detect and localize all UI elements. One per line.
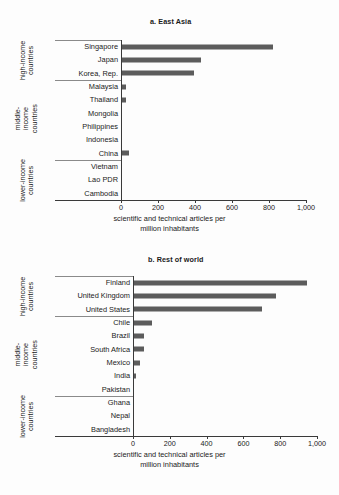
x-tick-label: 200 [152, 204, 164, 211]
bar-row: Finland [55, 276, 317, 289]
bar-row: Thailand [55, 93, 306, 106]
bar [133, 320, 152, 325]
category-label: Vietnam [55, 163, 121, 170]
bar-track [133, 383, 317, 396]
x-axis-title-b-line2: million inhabitants [0, 460, 339, 470]
x-tick-label: 400 [201, 440, 213, 447]
bar-track [133, 356, 317, 369]
bar [133, 333, 144, 338]
bar [121, 57, 201, 62]
category-label: United Kingdom [55, 292, 133, 299]
bar-row: Bangladesh [55, 423, 317, 436]
x-tick-label: 600 [226, 204, 238, 211]
x-axis-ticks-b: 02004006008001,000 [0, 436, 339, 450]
group-label-b-middle-income: middle- income countries [14, 325, 39, 385]
bar-row: Nepal [55, 409, 317, 422]
category-label: Lao PDR [55, 176, 121, 183]
x-tick-label: 1,000 [297, 204, 315, 211]
bar-row: Mongolia [55, 107, 306, 120]
x-tick-label: 0 [131, 440, 135, 447]
x-tick-label: 1,000 [308, 440, 326, 447]
bar-rows-east-asia: SingaporeJapanKorea, Rep.MalaysiaThailan… [55, 40, 306, 200]
group-label-b-high-income: high-income countries [19, 266, 36, 326]
category-label: Mexico [55, 359, 133, 366]
chart-panel-east-asia: a. East Asia SingaporeJapanKorea, Rep.Ma… [0, 0, 339, 238]
x-tick-label: 200 [164, 440, 176, 447]
x-tick-label: 400 [189, 204, 201, 211]
bar-track [133, 303, 317, 316]
x-axis-title-b-line1: scientific and technical articles per [0, 450, 339, 460]
bar-row: Vietnam [55, 160, 306, 173]
x-tick-label: 800 [274, 440, 286, 447]
category-label: Singapore [55, 43, 121, 50]
bar-row: United States [55, 303, 317, 316]
x-tick-label: 600 [237, 440, 249, 447]
bar [133, 347, 144, 352]
group-separator-b-high-middle [55, 316, 133, 317]
value-axis-line-a [121, 40, 122, 200]
bar-row: Pakistan [55, 383, 317, 396]
chart-panel-rest-of-world: b. Rest of world FinlandUnited KingdomUn… [0, 238, 339, 495]
bar [133, 280, 307, 285]
category-label: Malaysia [55, 83, 121, 90]
bar-track [133, 316, 317, 329]
category-label: Indonesia [55, 136, 121, 143]
category-label: Brazil [55, 332, 133, 339]
bar [121, 71, 194, 76]
bar-track [121, 53, 306, 66]
bar-track [121, 40, 306, 53]
bar-track [121, 67, 306, 80]
bar-row: United Kingdom [55, 289, 317, 302]
x-tick-label: 800 [263, 204, 275, 211]
category-label: Finland [55, 279, 133, 286]
bar-track [133, 423, 317, 436]
bar-row: Singapore [55, 40, 306, 53]
bar-track [133, 289, 317, 302]
bar-row: Cambodia [55, 187, 306, 200]
bar [121, 44, 273, 49]
bar-row: South Africa [55, 343, 317, 356]
category-label: Nepal [55, 412, 133, 419]
category-label: South Africa [55, 346, 133, 353]
plot-area-rest-of-world: FinlandUnited KingdomUnited StatesChileB… [0, 276, 339, 436]
group-separator-b-top [55, 276, 133, 277]
bar [133, 293, 276, 298]
bar-track [121, 173, 306, 186]
bar-track [121, 133, 306, 146]
x-tick-label: 0 [119, 204, 123, 211]
x-axis-title-a-line2: million inhabitants [0, 224, 339, 234]
chart-title-b: b. Rest of world [148, 255, 204, 264]
x-axis-title-a-line1: scientific and technical articles per [0, 214, 339, 224]
figure-root: a. East Asia SingaporeJapanKorea, Rep.Ma… [0, 0, 339, 495]
category-label: Chile [55, 319, 133, 326]
bar-track [121, 93, 306, 106]
x-axis-ticks-a: 02004006008001,000 [0, 200, 339, 214]
bar-track [133, 276, 317, 289]
bar-row: Ghana [55, 396, 317, 409]
bar-row: Brazil [55, 329, 317, 342]
category-label: Bangladesh [55, 426, 133, 433]
bar-track [133, 329, 317, 342]
bar-track [133, 343, 317, 356]
bar-track [121, 120, 306, 133]
category-label: Cambodia [55, 190, 121, 197]
bar-row: Lao PDR [55, 173, 306, 186]
plot-area-east-asia: SingaporeJapanKorea, Rep.MalaysiaThailan… [0, 40, 339, 200]
bar-row: Japan [55, 53, 306, 66]
bar-track [121, 187, 306, 200]
bar-track [133, 369, 317, 382]
bar-row: Indonesia [55, 133, 306, 146]
group-label-a-middle-income: middle- income countries [14, 89, 39, 149]
group-separator-b-middle-lower [55, 396, 133, 397]
group-separator-a-top [55, 40, 121, 41]
group-label-a-high-income: high-income countries [19, 30, 36, 90]
group-separator-a-middle-lower [55, 160, 121, 161]
category-label: India [55, 372, 133, 379]
category-label: Thailand [55, 96, 121, 103]
category-label: Pakistan [55, 386, 133, 393]
bar-row: India [55, 369, 317, 382]
category-label: Japan [55, 56, 121, 63]
bar-track [133, 409, 317, 422]
category-label: Mongolia [55, 110, 121, 117]
bar-track [121, 80, 306, 93]
